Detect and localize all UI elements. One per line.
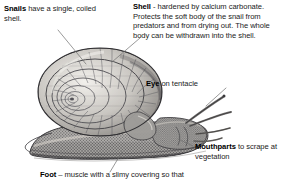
annotation-mouthparts: Mouthparts to scrape at vegetation xyxy=(195,142,283,162)
annotation-mouthparts-term: Mouthparts xyxy=(195,142,236,151)
annotation-eye-term: Eye xyxy=(146,79,159,88)
eye-point xyxy=(223,95,226,98)
annotation-foot-text: – muscle with a slimy covering so that xyxy=(56,170,184,179)
snail-diagram-page: Snails have a single, coiled shell. Shel… xyxy=(0,0,284,185)
annotation-foot: Foot – muscle with a slimy covering so t… xyxy=(40,170,270,180)
annotation-snails-term: Snails xyxy=(4,4,26,13)
annotation-shell-text: - hardened by calcium carbonate. Protect… xyxy=(133,2,270,40)
annotation-foot-term: Foot xyxy=(40,170,56,179)
annotation-snails: Snails have a single, coiled shell. xyxy=(4,4,96,23)
annotation-eye-text: on tentacle xyxy=(159,79,198,88)
annotation-shell: Shell - hardened by calcium carbonate. P… xyxy=(133,2,281,40)
snail-shell-part xyxy=(38,48,162,140)
annotation-eye: Eye on tentacle xyxy=(146,79,256,89)
annotation-shell-term: Shell xyxy=(133,2,151,11)
